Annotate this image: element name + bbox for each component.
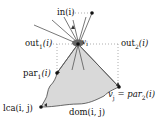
node-lca <box>39 105 43 109</box>
par2-main: par <box>127 89 142 99</box>
vj-eq: = <box>115 89 128 99</box>
par1-arg: (i) <box>41 68 50 78</box>
par1-main: par <box>23 68 38 78</box>
par2-arg: (i) <box>146 89 155 99</box>
out1-main: out <box>25 38 39 48</box>
label-out2: out2(i) <box>121 39 148 50</box>
label-dom: dom(i, j) <box>69 108 105 117</box>
vi-sub: i <box>86 40 88 47</box>
out2-main: out <box>121 38 135 48</box>
node-v-i <box>76 42 80 46</box>
node-in <box>90 11 94 15</box>
out2-arg: (i) <box>139 38 148 48</box>
node-par1 <box>55 71 59 75</box>
label-in: in(i) <box>57 8 75 17</box>
out1-arg: (i) <box>43 38 52 48</box>
label-lca: lca(i, j) <box>3 104 33 113</box>
label-par1: par1(i) <box>23 69 51 80</box>
label-vj-par2: vj = par2(i) <box>108 90 155 101</box>
label-vi: vi <box>82 39 88 47</box>
label-out1: out1(i) <box>25 39 52 50</box>
